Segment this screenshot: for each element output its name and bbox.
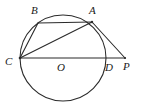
point-label-P: P [123, 61, 130, 72]
point-label-D: D [105, 62, 113, 73]
geometry-canvas [0, 0, 144, 107]
segment-AP [92, 22, 125, 58]
point-label-A: A [89, 5, 96, 16]
point-label-C: C [5, 56, 12, 67]
point-C-dot [19, 57, 22, 60]
point-label-O: O [57, 62, 65, 73]
point-A-dot [91, 21, 93, 23]
segment-CB [20, 23, 38, 58]
point-P-dot [124, 57, 126, 59]
point-label-B: B [31, 5, 38, 16]
segment-BA [38, 22, 92, 23]
geometry-figure: B A C O D P [0, 0, 144, 107]
segment-CA [20, 22, 92, 58]
